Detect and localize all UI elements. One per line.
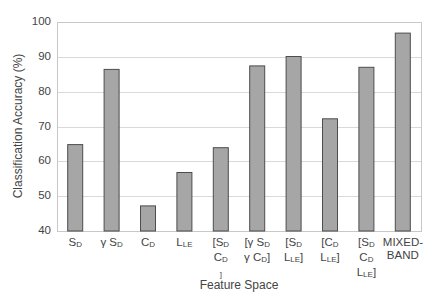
y-tick-label: 100 xyxy=(21,15,51,27)
bar xyxy=(323,119,338,231)
x-tick-label: [SDLLE] xyxy=(274,236,314,266)
y-tick-label: 90 xyxy=(21,50,51,62)
x-tick-label: [SDCD ] xyxy=(201,236,241,281)
x-tick-label: γ SD xyxy=(92,236,132,251)
y-tick-label: 80 xyxy=(21,85,51,97)
bar xyxy=(395,33,410,231)
x-tick-label: LLE xyxy=(164,236,204,251)
bar xyxy=(250,66,265,231)
bar xyxy=(286,57,301,232)
x-tick-label: [SDCDLLE] xyxy=(346,236,386,281)
y-tick-label: 50 xyxy=(21,189,51,201)
bar-chart: Classification Accuracy (%) Feature Spac… xyxy=(0,0,437,298)
bar xyxy=(213,148,228,231)
x-tick-label: MIXED-BAND xyxy=(383,236,423,262)
bar xyxy=(68,145,83,231)
bar xyxy=(359,67,374,231)
bar xyxy=(141,206,156,231)
y-tick-label: 60 xyxy=(21,154,51,166)
x-tick-label: [γ SDγ CD] xyxy=(237,236,277,266)
x-tick-label: [CDLLE] xyxy=(310,236,350,266)
y-tick-label: 40 xyxy=(21,224,51,236)
x-tick-label: CD xyxy=(128,236,168,251)
y-tick-label: 70 xyxy=(21,120,51,132)
bar xyxy=(177,173,192,232)
bar xyxy=(104,69,119,231)
x-tick-label: SD xyxy=(55,236,95,251)
